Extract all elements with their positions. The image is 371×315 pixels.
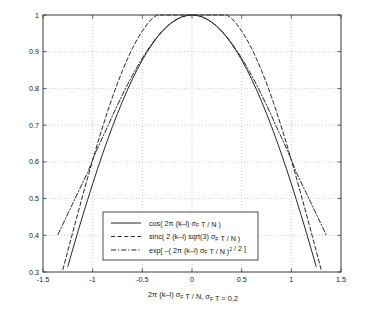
figure-canvas: -1.5-1-0.500.511.50.30.40.50.60.70.80.91… <box>0 0 371 315</box>
x-tick-label-1: -1 <box>89 275 95 284</box>
y-tick-label-6: 0.9 <box>29 47 39 56</box>
chart-legend: cos( 2π (k–l) σF T / N )sinc( 2 (k–l) sq… <box>103 212 258 260</box>
y-tick-label-7: 1 <box>35 11 39 20</box>
x-tick-label-4: 0.5 <box>237 275 247 284</box>
x-tick-label-2: -0.5 <box>136 275 148 284</box>
y-tick-label-4: 0.7 <box>29 121 39 130</box>
y-tick-label-0: 0.3 <box>29 268 39 277</box>
y-tick-label-2: 0.5 <box>29 194 39 203</box>
y-tick-label-1: 0.4 <box>29 231 39 240</box>
x-tick-label-3: 0 <box>190 275 194 284</box>
y-tick-label-3: 0.6 <box>29 157 39 166</box>
x-tick-label-5: 1 <box>289 275 293 284</box>
figure-background <box>0 0 371 315</box>
y-tick-label-5: 0.8 <box>29 84 39 93</box>
chart-plot: -1.5-1-0.500.511.50.30.40.50.60.70.80.91… <box>0 0 371 315</box>
x-tick-label-6: 1.5 <box>336 275 346 284</box>
